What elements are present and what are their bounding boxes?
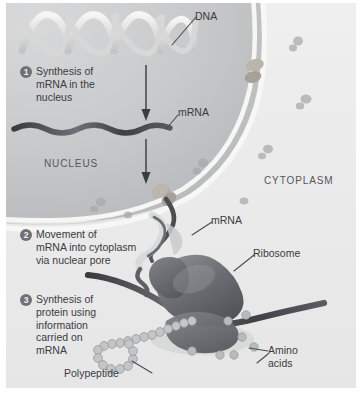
- step-3: 3 Synthesis of protein using information…: [20, 293, 96, 357]
- step-2-number: 2: [20, 229, 32, 241]
- label-mrna-nucleus: mRNA: [178, 106, 209, 119]
- figure-root: 1 Synthesis of mRNA in the nucleus 2 Mov…: [0, 0, 362, 397]
- step-2: 2 Movement of mRNA into cytoplasm via nu…: [20, 228, 136, 266]
- step-3-text: Synthesis of protein using information c…: [36, 293, 96, 357]
- step-2-text: Movement of mRNA into cytoplasm via nucl…: [36, 228, 136, 266]
- label-dna: DNA: [195, 10, 217, 23]
- step-1-number: 1: [20, 66, 32, 78]
- label-mrna-cytoplasm: mRNA: [211, 214, 242, 227]
- diagram-canvas: 1 Synthesis of mRNA in the nucleus 2 Mov…: [6, 3, 356, 388]
- step-1: 1 Synthesis of mRNA in the nucleus: [20, 65, 95, 103]
- step-1-text: Synthesis of mRNA in the nucleus: [36, 65, 95, 103]
- step-3-number: 3: [20, 294, 32, 306]
- label-polypeptide: Polypeptide: [64, 367, 119, 380]
- label-cytoplasm: CYTOPLASM: [264, 175, 334, 187]
- label-amino-acids: Amino acids: [268, 344, 298, 370]
- label-ribosome: Ribosome: [253, 247, 300, 260]
- label-nucleus: NUCLEUS: [44, 158, 98, 170]
